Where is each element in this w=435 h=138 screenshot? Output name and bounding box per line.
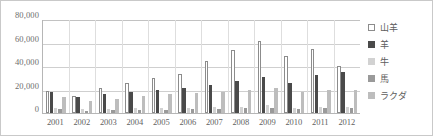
y-axis-tick: 60,000: [15, 34, 39, 44]
bar[interactable]: [209, 85, 212, 113]
bar[interactable]: [323, 108, 326, 113]
bar[interactable]: [293, 108, 296, 113]
bar-group: [149, 20, 176, 113]
legend-swatch-icon: [368, 75, 375, 82]
plot-area: [42, 20, 360, 114]
legend-item[interactable]: 山羊: [368, 19, 432, 36]
bar-group: [308, 20, 335, 113]
bar[interactable]: [187, 108, 190, 113]
bar[interactable]: [231, 50, 234, 113]
bar-group: [176, 20, 203, 113]
bar[interactable]: [301, 92, 304, 113]
x-axis-tick: 2002: [69, 117, 96, 133]
bar[interactable]: [62, 97, 65, 113]
bar[interactable]: [46, 91, 49, 113]
bar[interactable]: [217, 109, 220, 113]
bar[interactable]: [354, 90, 357, 113]
y-axis-tick: 80,000: [15, 10, 39, 20]
bar[interactable]: [327, 90, 330, 113]
y-axis-tick: 0: [35, 104, 39, 114]
bar[interactable]: [85, 111, 88, 113]
bar[interactable]: [156, 90, 159, 113]
bar[interactable]: [284, 56, 287, 113]
legend-swatch-icon: [368, 58, 375, 65]
y-axis-tick: 20,000: [15, 81, 39, 91]
bar[interactable]: [235, 81, 238, 113]
bar[interactable]: [76, 97, 79, 113]
bar[interactable]: [152, 78, 155, 113]
y-axis-tick: 40,000: [15, 57, 39, 67]
x-axis-tick: 2010: [281, 117, 308, 133]
bar[interactable]: [107, 109, 110, 113]
bar[interactable]: [240, 107, 243, 113]
bar-group: [335, 20, 361, 113]
bar-group: [96, 20, 123, 113]
bar[interactable]: [142, 96, 145, 113]
legend-label: ラクダ: [380, 89, 407, 102]
x-axis-tick: 2006: [175, 117, 202, 133]
bar[interactable]: [288, 83, 291, 113]
bar[interactable]: [311, 49, 314, 113]
legend-item[interactable]: 牛: [368, 53, 432, 70]
bar[interactable]: [182, 88, 185, 113]
bar[interactable]: [191, 109, 194, 113]
bar[interactable]: [319, 107, 322, 113]
x-axis-tick: 2005: [148, 117, 175, 133]
bar[interactable]: [138, 110, 141, 113]
bar[interactable]: [266, 105, 269, 113]
bar[interactable]: [160, 108, 163, 113]
bar[interactable]: [125, 83, 128, 113]
bar[interactable]: [315, 75, 318, 113]
legend-label: 牛: [380, 55, 389, 68]
bar[interactable]: [178, 74, 181, 113]
bar[interactable]: [50, 92, 53, 113]
legend-item[interactable]: 羊: [368, 36, 432, 53]
bar[interactable]: [346, 107, 349, 113]
bar[interactable]: [58, 109, 61, 113]
bar[interactable]: [134, 108, 137, 113]
bar[interactable]: [89, 101, 92, 113]
legend-swatch-icon: [368, 24, 375, 31]
bar[interactable]: [274, 88, 277, 113]
legend-swatch-icon: [368, 92, 375, 99]
y-axis: 80,00060,00040,00020,0000: [1, 15, 41, 115]
legend-label: 羊: [380, 38, 389, 51]
legend-item[interactable]: ラクダ: [368, 87, 432, 104]
bar[interactable]: [168, 94, 171, 113]
bar[interactable]: [115, 99, 118, 113]
x-axis-tick: 2007: [201, 117, 228, 133]
bar[interactable]: [350, 108, 353, 113]
bar[interactable]: [195, 93, 198, 113]
bar[interactable]: [341, 72, 344, 113]
legend-item[interactable]: 馬: [368, 70, 432, 87]
bar[interactable]: [213, 107, 216, 113]
x-axis-tick: 2009: [254, 117, 281, 133]
bar[interactable]: [297, 109, 300, 113]
bar[interactable]: [244, 108, 247, 113]
bar[interactable]: [103, 94, 106, 113]
chart-container: 80,00060,00040,00020,0000 20012002200320…: [0, 0, 433, 136]
bar-group: [202, 20, 229, 113]
bar[interactable]: [99, 88, 102, 113]
bar[interactable]: [164, 110, 167, 113]
bar[interactable]: [248, 90, 251, 113]
x-axis-tick: 2008: [228, 117, 255, 133]
bar[interactable]: [221, 92, 224, 113]
bar-groups: [43, 20, 360, 113]
x-axis-tick: 2001: [42, 117, 69, 133]
bar[interactable]: [270, 108, 273, 113]
bar[interactable]: [111, 110, 114, 113]
bar[interactable]: [81, 109, 84, 113]
bar[interactable]: [262, 77, 265, 113]
bar-group: [255, 20, 282, 113]
x-axis-tick: 2003: [95, 117, 122, 133]
x-axis-tick: 2012: [334, 117, 361, 133]
bar[interactable]: [337, 66, 340, 113]
bar[interactable]: [258, 41, 261, 113]
bar[interactable]: [54, 108, 57, 113]
legend: 山羊羊牛馬ラクダ: [368, 19, 432, 104]
bar[interactable]: [72, 96, 75, 113]
bar-group: [70, 20, 97, 113]
bar[interactable]: [129, 92, 132, 113]
bar[interactable]: [205, 61, 208, 113]
